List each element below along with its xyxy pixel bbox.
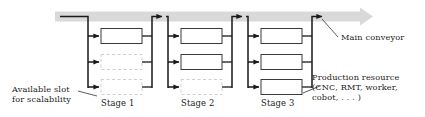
label-production-resource-line1: Production resource xyxy=(312,72,400,83)
leader-line-main-conveyor xyxy=(322,19,338,37)
label-stage-1: Stage 1 xyxy=(101,98,134,109)
stage-1-group xyxy=(60,17,162,95)
label-available-slot-line1: Available slot xyxy=(12,84,70,95)
stage-2-group xyxy=(166,17,242,95)
label-available-slot-line2: for scalability xyxy=(12,94,71,105)
resource-box xyxy=(181,55,222,70)
label-main-conveyor: Main conveyor xyxy=(341,32,404,43)
resource-box xyxy=(181,29,222,44)
leader-line-available-slot xyxy=(78,91,97,96)
empty-slot-box xyxy=(101,80,142,95)
resource-box xyxy=(101,29,142,44)
label-production-resource-line2: (CNC, RMT, worker, xyxy=(312,82,398,93)
label-production-resource-line3: cobot, . . . ) xyxy=(312,92,361,103)
empty-slot-box xyxy=(101,55,142,70)
label-stage-2: Stage 2 xyxy=(181,98,214,109)
empty-slot-box xyxy=(181,80,222,95)
label-stage-3: Stage 3 xyxy=(261,98,294,109)
stage-3-group xyxy=(246,17,322,95)
resource-box xyxy=(261,55,302,70)
resource-box xyxy=(261,29,302,44)
manufacturing-line-figure: Main conveyor Available slot for scalabi… xyxy=(0,0,425,117)
resource-box xyxy=(261,80,302,95)
